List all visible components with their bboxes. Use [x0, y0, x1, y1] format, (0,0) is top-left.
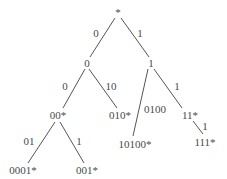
edge-root-1 — [121, 18, 149, 57]
node-1: 1 — [148, 57, 154, 69]
trie-diagram: * 0 1 00* 010* 10100* 11* 111* 0001* 001… — [0, 0, 227, 179]
node-0: 0 — [84, 57, 90, 69]
node-111: 111* — [194, 136, 215, 148]
edge-label-1-10100: 0100 — [144, 103, 167, 115]
node-root: * — [115, 6, 121, 18]
node-10100: 10100* — [119, 138, 152, 150]
edge-label-0-010: 10 — [106, 80, 118, 92]
node-11: 11* — [182, 109, 198, 121]
node-00: 00* — [50, 109, 67, 121]
edge-label-0-00: 0 — [62, 80, 68, 92]
edge-label-00-0001: 01 — [24, 135, 35, 147]
node-010: 010* — [109, 109, 131, 121]
edge-label-root-0: 0 — [93, 27, 99, 39]
node-0001: 0001* — [9, 164, 37, 176]
node-001: 001* — [76, 164, 98, 176]
edge-label-00-001: 1 — [76, 135, 82, 147]
edge-label-11-111: 1 — [202, 120, 208, 132]
edge-label-root-1: 1 — [137, 27, 143, 39]
edge-label-1-11: 1 — [174, 80, 180, 92]
